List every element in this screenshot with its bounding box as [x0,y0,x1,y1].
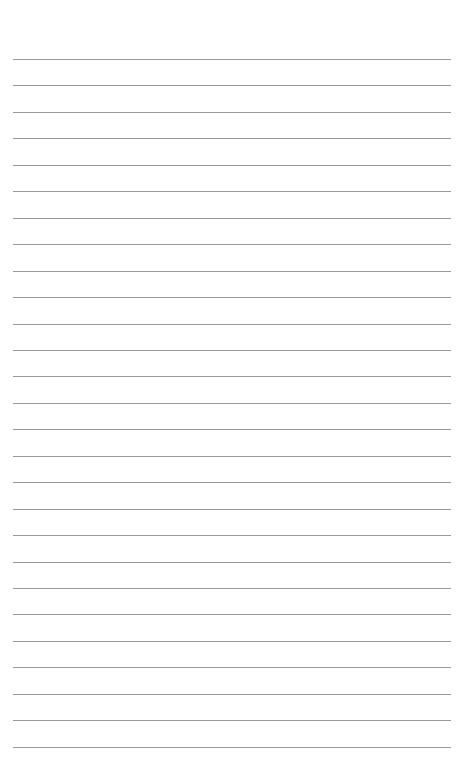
ruled-line [13,667,451,668]
ruled-line [13,191,451,192]
ruled-line [13,403,451,404]
ruled-line [13,324,451,325]
ruled-line [13,271,451,272]
ruled-line [13,244,451,245]
ruled-line [13,694,451,695]
ruled-line [13,376,451,377]
ruled-line [13,641,451,642]
ruled-line [13,350,451,351]
lined-paper-page [0,0,473,783]
ruled-line [13,112,451,113]
ruled-line [13,509,451,510]
ruled-line [13,429,451,430]
ruled-line [13,747,451,748]
ruled-line [13,720,451,721]
ruled-line [13,218,451,219]
ruled-line [13,562,451,563]
ruled-line [13,535,451,536]
ruled-line [13,456,451,457]
ruled-line [13,138,451,139]
ruled-line [13,297,451,298]
ruled-line [13,482,451,483]
ruled-line [13,85,451,86]
ruled-line [13,59,451,60]
ruled-line [13,588,451,589]
ruled-line [13,614,451,615]
ruled-line [13,165,451,166]
